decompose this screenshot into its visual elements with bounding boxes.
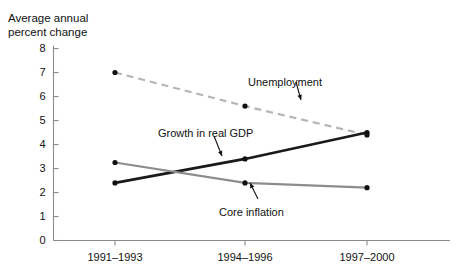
series-label-unemployment: Unemployment [248, 76, 322, 88]
data-point-marker [112, 70, 117, 75]
series-label-core-inflation: Core inflation [219, 206, 284, 218]
x-axis-tick-label: 1994–1996 [195, 251, 295, 263]
data-point-marker [364, 185, 369, 190]
series-line-unemployment [115, 73, 367, 135]
y-axis-tick-label: 2 [30, 186, 46, 198]
data-point-marker [112, 180, 117, 185]
x-axis-tick-label: 1991–1993 [65, 251, 165, 263]
series-label-growth-in-real-gdp: Growth in real GDP [158, 127, 253, 139]
y-axis-tick-label: 7 [30, 66, 46, 78]
data-point-marker [242, 104, 247, 109]
y-axis-tick-label: 6 [30, 90, 46, 102]
y-axis-tick-label: 1 [30, 210, 46, 222]
series-line-growth-in-real-gdp [115, 133, 367, 183]
y-axis-tick-label: 4 [30, 138, 46, 150]
y-axis-tick-label: 5 [30, 114, 46, 126]
data-point-marker [364, 130, 369, 135]
data-point-marker [112, 160, 117, 165]
x-axis-tick-label: 1997–2000 [317, 251, 417, 263]
chart-figure: Average annualpercent change 012345678 1… [0, 0, 459, 273]
y-axis-tick-label: 0 [30, 234, 46, 246]
data-point-marker [242, 180, 247, 185]
data-point-marker [242, 156, 247, 161]
y-axis-tick-label: 3 [30, 162, 46, 174]
y-axis-tick-label: 8 [30, 42, 46, 54]
